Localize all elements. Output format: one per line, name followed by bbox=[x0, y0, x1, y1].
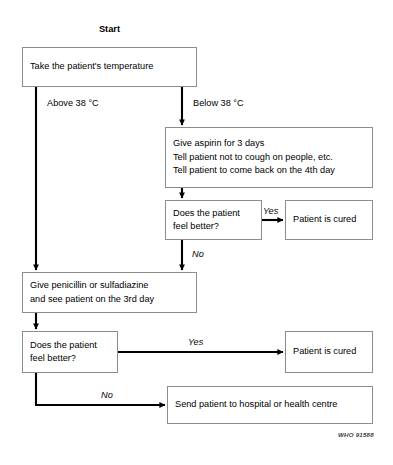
edge-label-no-penicillin: No bbox=[101, 390, 113, 400]
node-text: feel better? bbox=[30, 352, 110, 366]
node-text: Send patient to hospital or health centr… bbox=[175, 398, 365, 412]
node-text: Take the patient's temperature bbox=[30, 60, 189, 74]
node-give-aspirin: Give aspirin for 3 days Tell patient not… bbox=[165, 127, 373, 188]
node-text: Tell patient not to cough on people, etc… bbox=[173, 151, 365, 165]
node-take-temperature: Take the patient's temperature bbox=[22, 47, 197, 87]
node-text: Does the patient bbox=[30, 339, 110, 353]
edge-no-penicillin bbox=[36, 373, 165, 405]
node-give-penicillin: Give penicillin or sulfadiazine and see … bbox=[22, 272, 197, 313]
edge-label-below-38: Below 38 °C bbox=[193, 98, 244, 108]
node-text: Give aspirin for 3 days bbox=[173, 137, 365, 151]
node-text: Patient is cured bbox=[293, 213, 365, 227]
node-text: Give penicillin or sulfadiazine bbox=[30, 279, 189, 293]
node-text: Does the patient bbox=[173, 207, 254, 221]
who-credit-label: WHO 91588 bbox=[338, 431, 374, 438]
edge-label-yes-aspirin: Yes bbox=[263, 206, 278, 216]
edge-label-no-aspirin: No bbox=[192, 249, 204, 259]
node-patient-cured-aspirin: Patient is cured bbox=[285, 200, 373, 240]
node-text: feel better? bbox=[173, 220, 254, 234]
node-send-to-hospital: Send patient to hospital or health centr… bbox=[167, 386, 373, 424]
start-label: Start bbox=[22, 24, 197, 34]
edge-label-yes-penicillin: Yes bbox=[188, 337, 203, 347]
node-text: and see patient on the 3rd day bbox=[30, 293, 189, 307]
edge-label-above-38: Above 38 °C bbox=[47, 98, 99, 108]
node-patient-cured-penicillin: Patient is cured bbox=[285, 331, 373, 373]
node-text: Tell patient to come back on the 4th day bbox=[173, 164, 365, 178]
node-decision-better-penicillin: Does the patient feel better? bbox=[22, 331, 118, 373]
flowchart-diagram: Start Take the patient's temperature Giv… bbox=[0, 0, 393, 465]
node-text: Patient is cured bbox=[293, 345, 365, 359]
node-decision-better-aspirin: Does the patient feel better? bbox=[165, 200, 262, 240]
